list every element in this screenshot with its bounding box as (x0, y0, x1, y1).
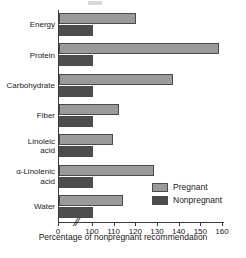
category-label-water: Water (0, 202, 55, 212)
bar-pregnant-linoleic-acid (59, 134, 113, 145)
category-label-protein: Protein (0, 51, 55, 61)
bar-nonpregnant-fiber (59, 116, 93, 127)
cropped-title-artifact (0, 0, 246, 6)
bar-pregnant-energy (59, 13, 136, 24)
category-label-linolenic-acid: α-Linolenic acid (0, 167, 55, 186)
bar-nonpregnant-protein (59, 55, 93, 66)
pregnant-swatch (152, 183, 168, 192)
bar-group (59, 40, 224, 70)
title-remnant (88, 1, 102, 5)
legend-label: Nonpregnant (173, 195, 222, 205)
bar-nonpregnant-carbohydrate (59, 86, 93, 97)
bar-group (59, 71, 224, 101)
nonpregnant-swatch (152, 196, 168, 205)
bar-nonpregnant-linoleic-acid (59, 146, 93, 157)
x-tick-110 (114, 222, 115, 226)
bar-pregnant-protein (59, 43, 219, 54)
bar-nonpregnant-linolenic-acid (59, 177, 93, 188)
category-label-carbohydrate: Carbohydrate (0, 81, 55, 91)
x-tick-140 (179, 222, 180, 226)
x-tick-120 (135, 222, 136, 226)
bar-pregnant-water (59, 195, 123, 206)
x-tick-160 (222, 222, 223, 226)
x-tick-100 (92, 222, 93, 226)
bar-nonpregnant-energy (59, 25, 93, 36)
legend-item-nonpregnant: Nonpregnant (152, 195, 222, 205)
chart-figure: EnergyProteinCarbohydrateFiberLinoleic a… (0, 0, 246, 258)
legend-label: Pregnant (173, 182, 208, 192)
bar-pregnant-linolenic-acid (59, 165, 154, 176)
bar-pregnant-fiber (59, 104, 119, 115)
category-label-linoleic-acid: Linoleic acid (0, 137, 55, 156)
x-tick-130 (157, 222, 158, 226)
legend-item-pregnant: Pregnant (152, 182, 222, 192)
bar-group (59, 101, 224, 131)
chart-legend: PregnantNonpregnant (152, 182, 222, 208)
category-label-fiber: Fiber (0, 111, 55, 121)
x-axis-label: Percentage of nonpregnant recommendation (0, 232, 246, 242)
category-label-energy: Energy (0, 20, 55, 30)
bar-group (59, 131, 224, 161)
bar-group (59, 10, 224, 40)
x-tick-0 (58, 222, 59, 226)
bar-pregnant-carbohydrate (59, 74, 173, 85)
x-tick-150 (200, 222, 201, 226)
